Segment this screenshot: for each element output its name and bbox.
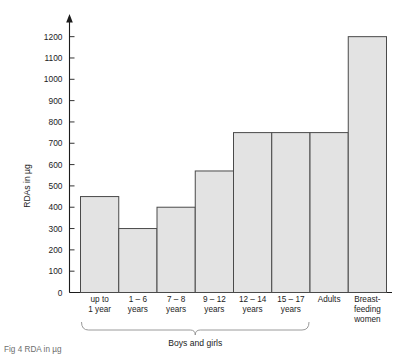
x-category-label: 12 – 14 bbox=[239, 295, 267, 304]
y-tick-label: 500 bbox=[49, 181, 63, 191]
x-category-label: years bbox=[166, 305, 186, 314]
x-category-label: 15 – 17 bbox=[277, 295, 305, 304]
bar bbox=[348, 37, 386, 293]
y-tick-label: 700 bbox=[49, 138, 63, 148]
y-tick-label: 0 bbox=[58, 288, 63, 298]
y-tick-label: 400 bbox=[49, 202, 63, 212]
x-category-label: 1 year bbox=[88, 305, 111, 314]
x-category-label: 1 – 6 bbox=[129, 295, 148, 304]
group-brace-label: Boys and girls bbox=[168, 338, 222, 348]
y-tick-label: 300 bbox=[49, 224, 63, 234]
bar-chart: 0100200300400500600700800900100011001200… bbox=[0, 0, 416, 356]
bar bbox=[119, 229, 157, 293]
y-tick-label: 900 bbox=[49, 96, 63, 106]
y-tick-label: 1200 bbox=[44, 32, 63, 42]
x-category-label: Breast- bbox=[354, 295, 381, 304]
bar bbox=[272, 133, 310, 293]
x-category-label: years bbox=[204, 305, 224, 314]
x-category-label: 7 – 8 bbox=[167, 295, 186, 304]
x-category-label: feeding bbox=[354, 305, 381, 314]
y-axis-title-text: RDAs in µg bbox=[22, 164, 32, 208]
bar bbox=[157, 207, 195, 292]
x-category-label: up to bbox=[91, 295, 110, 304]
y-tick-label: 1000 bbox=[44, 74, 63, 84]
x-category-label: 9 – 12 bbox=[203, 295, 226, 304]
chart-container: 0100200300400500600700800900100011001200… bbox=[0, 0, 416, 356]
x-category-label: women bbox=[353, 315, 381, 324]
y-tick-label: 800 bbox=[49, 117, 63, 127]
y-axis-title: RDAs in µg bbox=[22, 164, 32, 208]
y-tick-label: 600 bbox=[49, 160, 63, 170]
figure-caption: Fig 4 RDA in µg bbox=[4, 345, 62, 354]
x-category-label: years bbox=[128, 305, 148, 314]
x-category-label: years bbox=[243, 305, 263, 314]
y-tick-label: 200 bbox=[49, 245, 63, 255]
x-category-label: years bbox=[281, 305, 301, 314]
bar bbox=[234, 133, 272, 293]
bar bbox=[195, 171, 233, 293]
bar bbox=[81, 197, 119, 293]
bar bbox=[310, 133, 348, 293]
y-tick-label: 1100 bbox=[44, 53, 62, 63]
x-category-label: Adults bbox=[318, 295, 341, 304]
y-tick-label: 100 bbox=[49, 266, 63, 276]
